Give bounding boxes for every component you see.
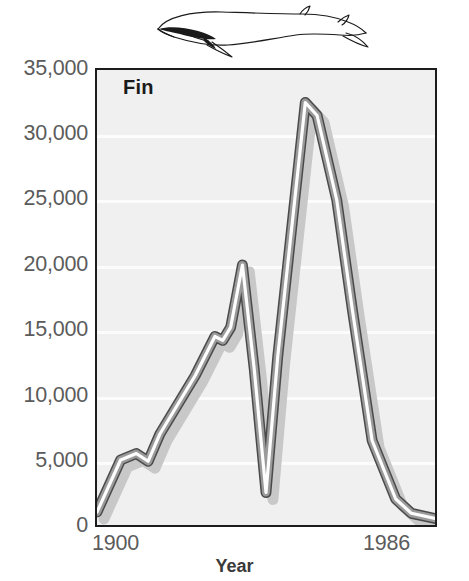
y-tick-5000: 5,000	[0, 448, 88, 473]
fin-whale-catch-line	[97, 70, 435, 525]
y-tick-30000: 30,000	[0, 121, 88, 146]
y-tick-20000: 20,000	[0, 252, 88, 277]
fin-whale-silhouette-icon	[150, 2, 372, 60]
x-tick-1986: 1986	[363, 531, 410, 556]
y-tick-0: 0	[0, 513, 88, 538]
y-axis: 35,000 30,000 25,000 20,000 15,000 10,00…	[0, 0, 88, 581]
whale-catch-chart: Fin 35,000 30,000 25,000 20,000 15,000 1…	[0, 0, 469, 581]
y-tick-35000: 35,000	[0, 56, 88, 81]
x-axis-title: Year	[0, 556, 469, 577]
y-tick-10000: 10,000	[0, 383, 88, 408]
plot-area	[95, 68, 437, 527]
y-tick-25000: 25,000	[0, 186, 88, 211]
series-label: Fin	[123, 76, 154, 99]
x-tick-1900: 1900	[92, 531, 139, 556]
whale-head-shading	[159, 27, 216, 39]
y-tick-15000: 15,000	[0, 317, 88, 342]
